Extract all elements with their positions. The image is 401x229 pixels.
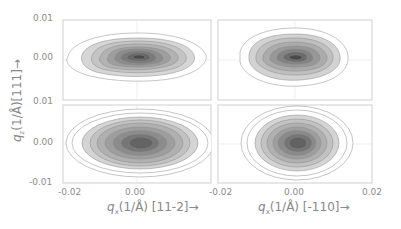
x-tick-left-000: 0.00 xyxy=(125,187,145,197)
y-tick-bottom-001: 0.01 xyxy=(33,96,53,106)
contour-top-left xyxy=(67,33,206,81)
y-tick-top-001: 0.01 xyxy=(33,13,53,23)
x-tick-right-000: 0.00 xyxy=(284,187,304,197)
y-axis-label: qz(1/Å)[111]→ xyxy=(10,59,26,142)
y-tick-top-000: 0.00 xyxy=(33,52,53,62)
contour-top-right xyxy=(240,28,348,86)
y-tick-bottom-m001: -0.01 xyxy=(29,177,52,187)
x-axis-label-right: qx(1/Å) [-110]→ xyxy=(258,200,350,216)
contour-bottom-right xyxy=(241,106,353,180)
x-axis-label-left: qx(1/Å) [11-2]→ xyxy=(107,200,199,216)
x-tick-mid-m002: -0.02 xyxy=(209,187,232,197)
y-tick-bottom-000: 0.00 xyxy=(33,137,53,147)
x-tick-left-m002: -0.02 xyxy=(58,187,81,197)
contour-bottom-left xyxy=(66,109,214,177)
x-tick-right-002: 0.02 xyxy=(362,187,382,197)
